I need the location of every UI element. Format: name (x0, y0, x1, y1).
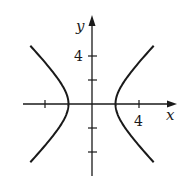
hyperbola-figure: y 4 4 x (0, 0, 187, 189)
y-axis-arrow-icon (89, 15, 96, 26)
plot-canvas: y 4 4 x (0, 0, 187, 189)
x-axis-label: x (166, 106, 175, 124)
x-tick-label-4: 4 (134, 113, 143, 129)
y-axis-label: y (75, 17, 85, 35)
y-tick-label-4: 4 (74, 48, 83, 64)
